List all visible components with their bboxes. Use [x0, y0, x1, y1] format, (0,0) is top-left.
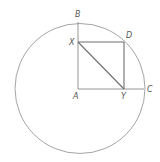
label-B: B	[75, 10, 81, 19]
label-C: C	[147, 85, 153, 94]
geometry-diagram: B X D A Y C	[0, 0, 160, 162]
label-Y: Y	[121, 92, 127, 101]
circle	[15, 24, 145, 154]
label-D: D	[126, 31, 132, 40]
segment-XY	[78, 42, 124, 89]
label-A: A	[72, 92, 78, 101]
label-X: X	[68, 38, 75, 47]
